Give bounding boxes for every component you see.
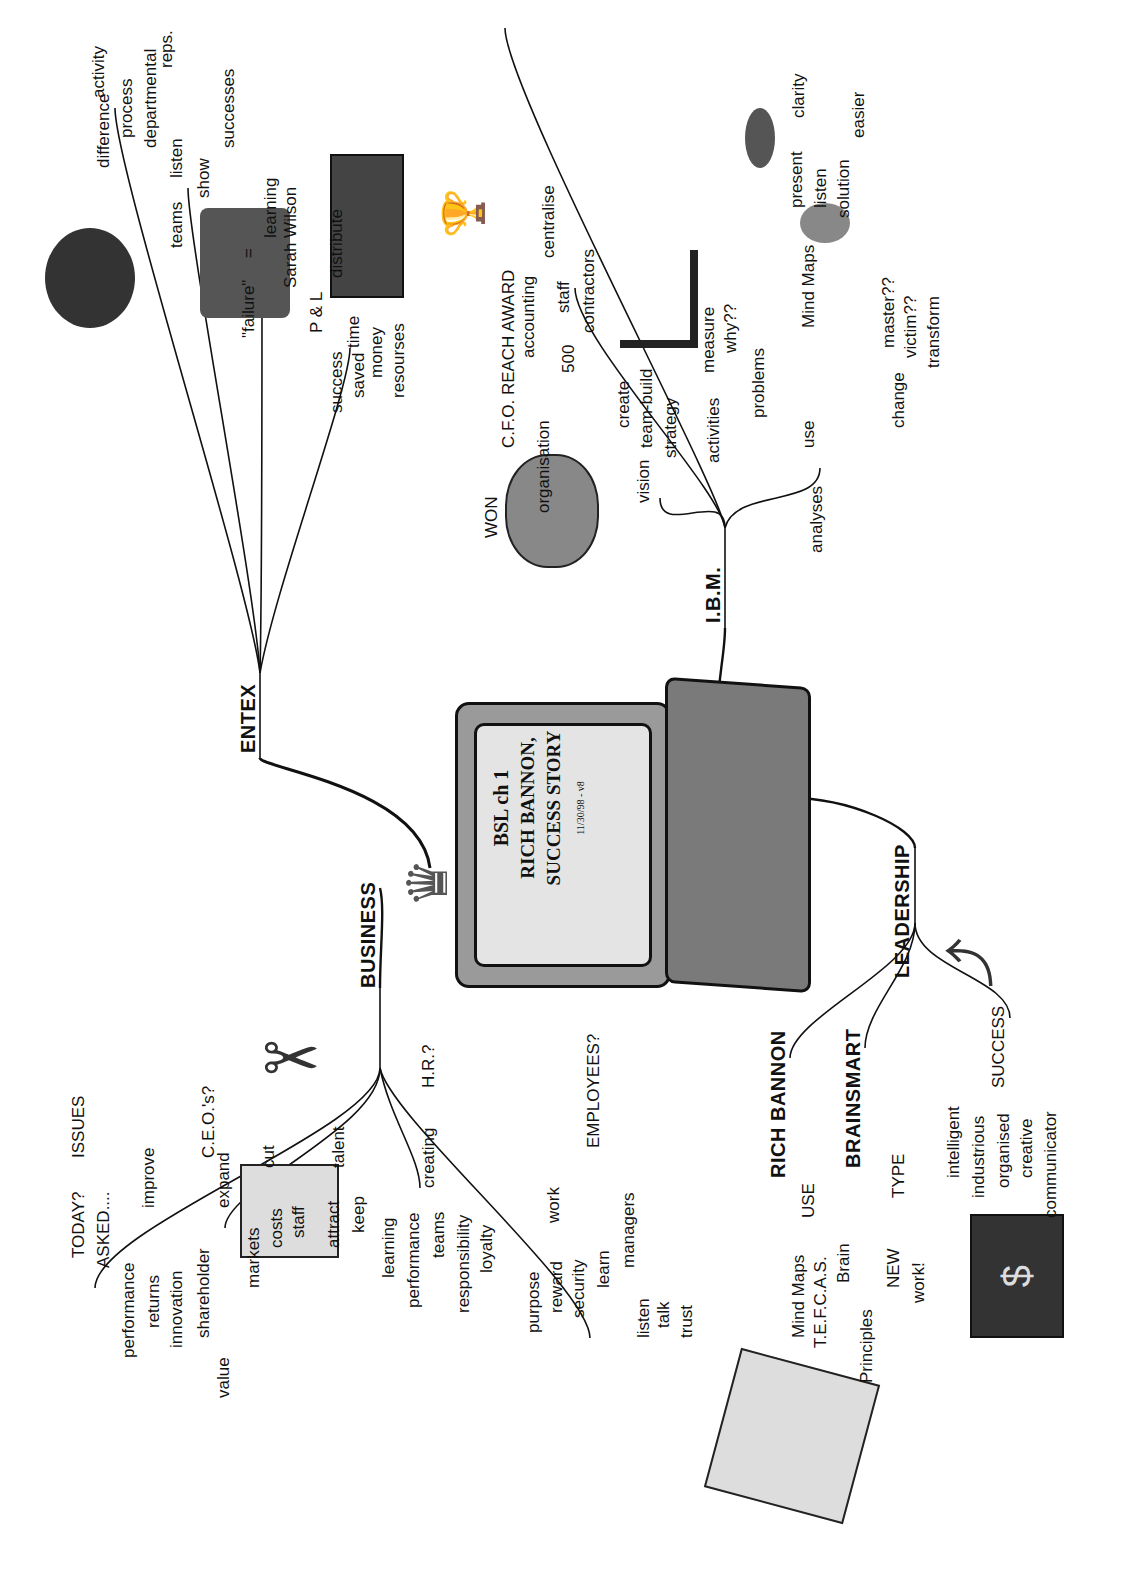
node: loyalty xyxy=(478,1225,495,1273)
curved-arrow-icon: ⤴ xyxy=(930,938,1002,988)
node: "failure" xyxy=(240,280,257,338)
node: organisation xyxy=(535,420,552,513)
node: keep xyxy=(350,1196,367,1233)
node: centralise xyxy=(540,185,557,258)
node: victim?? xyxy=(902,296,919,358)
node: TYPE xyxy=(890,1154,907,1198)
node: easier xyxy=(850,92,867,138)
node: 500 xyxy=(560,345,577,373)
node: purpose xyxy=(525,1272,542,1333)
node: listen xyxy=(168,138,185,178)
node: P & L xyxy=(308,292,325,333)
node: = xyxy=(240,248,257,258)
node: C.F.O. REACH AWARD xyxy=(500,270,517,448)
node: activity xyxy=(90,46,107,98)
node: managers xyxy=(620,1192,637,1268)
mind-map-canvas: BSL ch 1 RICH BANNON, SUCCESS STORY 11/3… xyxy=(0,0,1136,1588)
node: Mind Maps xyxy=(790,1255,807,1338)
node: analyses xyxy=(808,486,825,553)
node: process xyxy=(118,78,135,138)
node: show xyxy=(195,158,212,198)
node: performance xyxy=(120,1263,137,1358)
node: resourses xyxy=(390,323,407,398)
node: value xyxy=(215,1357,232,1398)
node: present xyxy=(788,151,805,208)
title-line-1: BSL ch 1 xyxy=(490,688,513,928)
branch-entex: ENTEX xyxy=(238,684,258,753)
node: innovation xyxy=(168,1270,185,1348)
node: change xyxy=(890,372,907,428)
title-line-2: RICH BANNON, xyxy=(517,688,539,928)
node: Sarah Wilson xyxy=(282,187,299,288)
node: saved xyxy=(350,353,367,398)
node: H.R.? xyxy=(420,1045,437,1088)
node: responsibility xyxy=(455,1215,472,1313)
node: security xyxy=(570,1259,587,1318)
node: Brain xyxy=(835,1243,852,1283)
node: improve xyxy=(140,1148,157,1208)
node: USE xyxy=(800,1183,817,1218)
node: ASKED.... xyxy=(95,1191,112,1268)
node: reps. xyxy=(158,30,175,68)
node: activities xyxy=(705,398,722,463)
node: money xyxy=(368,327,385,378)
node: talk xyxy=(655,1302,672,1328)
node: attract xyxy=(325,1201,342,1248)
dollar-bill-icon: $ xyxy=(970,1214,1064,1338)
node: listen xyxy=(635,1298,652,1338)
node: shareholder xyxy=(195,1248,212,1338)
node: problems xyxy=(750,348,767,418)
node: learning xyxy=(380,1218,397,1279)
top-hat-icon xyxy=(45,228,135,328)
node: creating xyxy=(420,1128,437,1188)
node: team-build xyxy=(638,369,655,448)
node: learning xyxy=(262,178,279,239)
node: distribute xyxy=(328,209,345,278)
node: staff xyxy=(555,281,572,313)
branch-business: BUSINESS xyxy=(358,882,378,988)
node: organised xyxy=(995,1113,1012,1188)
node: teams xyxy=(168,202,185,248)
scissors-icon: ✂ xyxy=(262,1018,321,1100)
node: talent xyxy=(330,1126,347,1168)
node: intelligent xyxy=(945,1106,962,1178)
node: create xyxy=(615,381,632,428)
node: cut xyxy=(260,1145,277,1168)
node: reward xyxy=(548,1261,565,1313)
crown-icon: ♛ xyxy=(395,858,460,908)
node: work! xyxy=(910,1262,927,1303)
node: transform xyxy=(925,296,942,368)
node: work xyxy=(545,1187,562,1223)
node: time xyxy=(345,316,362,348)
node: trust xyxy=(678,1305,695,1338)
node: vision xyxy=(635,460,652,503)
node: learn xyxy=(595,1250,612,1288)
node: SUCCESS xyxy=(990,1006,1007,1088)
branch-ibm: I.B.M. xyxy=(703,567,723,623)
node: measure xyxy=(700,307,717,373)
node: TODAY? xyxy=(70,1192,87,1258)
node: strategy xyxy=(662,398,679,458)
node: master?? xyxy=(880,277,897,348)
node: NEW xyxy=(885,1248,902,1288)
node: staff xyxy=(290,1206,307,1238)
node: use xyxy=(800,421,817,448)
node: ISSUES xyxy=(70,1096,87,1158)
center-date: 11/30/98 - v8 xyxy=(575,688,586,928)
node: Mind Maps xyxy=(800,245,817,328)
node: solution xyxy=(835,159,852,218)
node: why?? xyxy=(722,304,739,353)
node: teams xyxy=(430,1212,447,1258)
trophy-icon: 🏆 xyxy=(440,188,487,238)
node: clarity xyxy=(790,74,807,118)
node: difference xyxy=(95,94,112,168)
branch-leadership: LEADERSHIP xyxy=(892,844,912,978)
node: communicator xyxy=(1042,1111,1059,1218)
node: RICH BANNON xyxy=(768,1030,788,1178)
node: Principles xyxy=(858,1309,875,1383)
growth-chart-icon xyxy=(620,250,698,348)
node: creative xyxy=(1018,1118,1035,1178)
lips-icon xyxy=(745,108,775,168)
node: listen xyxy=(812,168,829,208)
node: EMPLOYEES? xyxy=(585,1034,602,1148)
